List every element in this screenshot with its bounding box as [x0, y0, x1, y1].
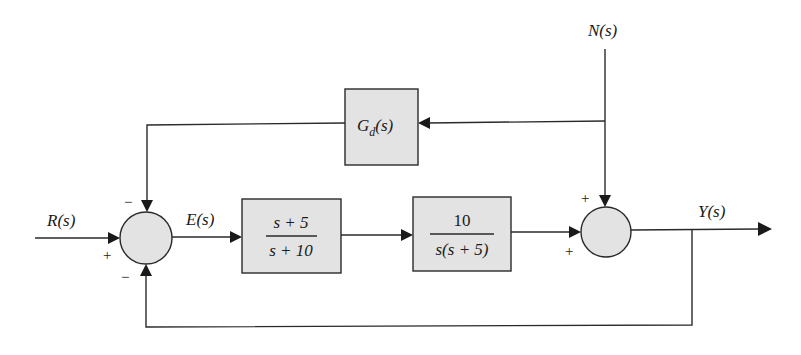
plant-denominator: s(s + 5) [435, 240, 488, 259]
arrow-icon [758, 222, 772, 236]
gd-output-wire [147, 123, 345, 204]
arrow-icon [401, 229, 413, 241]
block-diagram: R(s) − + − E(s) s + 5 s + 10 10 s(s + 5)… [0, 0, 801, 355]
right-summing-junction: + + [565, 190, 631, 259]
junction-sign-left: + [103, 247, 111, 263]
arrow-icon [599, 195, 611, 207]
gd-block: Gd(s) [345, 89, 418, 165]
junction-sign-top: − [124, 194, 132, 210]
input-signal: R(s) [35, 211, 120, 244]
arrow-icon [569, 226, 581, 238]
output-label: Y(s) [698, 202, 726, 221]
plant-block: 10 s(s + 5) [413, 197, 511, 271]
controller-block: s + 5 s + 10 [242, 199, 341, 273]
arrow-icon [141, 200, 153, 212]
junction-sign-top: + [581, 190, 589, 206]
input-label: R(s) [46, 211, 76, 230]
disturbance-label: N(s) [587, 21, 618, 40]
error-label: E(s) [185, 210, 215, 229]
junction-sign-left: + [565, 243, 573, 259]
arrow-icon [140, 264, 152, 276]
output-wire [631, 229, 760, 230]
junction-sign-bottom: − [121, 269, 129, 285]
plant-numerator: 10 [454, 211, 471, 230]
arrow-icon [230, 231, 242, 243]
controller-numerator: s + 5 [273, 213, 308, 232]
controller-denominator: s + 10 [269, 241, 313, 260]
summing-junction-icon [120, 212, 172, 264]
arrow-icon [418, 117, 430, 129]
arrow-icon [108, 232, 120, 244]
output-signal: Y(s) [631, 202, 772, 236]
summing-junction-icon [581, 207, 631, 257]
error-signal: E(s) [172, 210, 242, 243]
disturbance-signal: N(s) [418, 21, 618, 207]
disturbance-branch-wire [428, 121, 605, 123]
